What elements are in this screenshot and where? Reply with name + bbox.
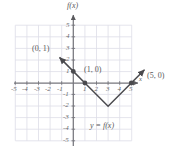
ytick-4: 4 [66, 33, 70, 40]
ytick--5: -5 [63, 137, 69, 144]
point-label-1-0: (1, 0) [84, 66, 101, 74]
y-axis-label: f(x) [67, 2, 78, 10]
ytick-5: 5 [66, 22, 70, 29]
point-0-1 [71, 69, 76, 74]
xtick--1: -1 [57, 86, 63, 93]
function-graph-figure: f(x) x (0, 1) (1, 0) (5, 0) y = f(x) -5 … [0, 0, 187, 157]
right-ray [131, 70, 144, 83]
xtick--2: -2 [45, 86, 51, 93]
xtick-2: 2 [95, 86, 99, 93]
curve-label: y = f(x) [90, 122, 114, 130]
ytick-3: 3 [66, 45, 70, 52]
xtick--5: -5 [11, 86, 17, 93]
ytick--2: -2 [63, 102, 69, 109]
xtick--3: -3 [34, 86, 40, 93]
curve-path [73, 71, 131, 106]
point-label-5-0: (5, 0) [147, 72, 164, 80]
ytick--3: -3 [63, 114, 69, 121]
ytick--4: -4 [63, 125, 69, 132]
xtick-3: 3 [106, 86, 110, 93]
point-label-0-1: (0, 1) [32, 45, 49, 53]
ytick--1: -1 [63, 91, 69, 98]
ytick-1: 1 [66, 68, 70, 75]
xtick-4: 4 [118, 86, 122, 93]
ytick-2: 2 [66, 56, 70, 63]
xtick-1: 1 [83, 86, 87, 93]
x-axis-label: x [139, 76, 142, 83]
xtick--4: -4 [22, 86, 28, 93]
xtick-5: 5 [129, 86, 133, 93]
